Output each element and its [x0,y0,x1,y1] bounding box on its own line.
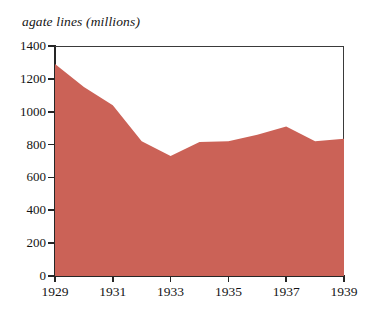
x-tick-mark [170,276,172,282]
y-tick-label: 0 [40,269,47,282]
x-tick-mark [228,276,230,282]
y-tick-label: 200 [27,236,47,249]
x-tick-mark [54,276,56,282]
x-tick-label: 1937 [256,285,316,299]
x-tick-mark [112,276,114,282]
chart-figure: agate lines (millions) 02004006008001000… [0,0,375,315]
x-tick-label: 1931 [83,285,143,299]
area-series-agate-lines [55,46,344,276]
y-tick-label: 400 [27,203,47,216]
x-tick-label: 1935 [198,285,258,299]
y-tick-label: 800 [27,138,47,151]
y-tick-label: 1000 [20,105,46,118]
x-tick-mark [285,276,287,282]
y-tick-label: 1400 [20,39,46,52]
area-fill-path [55,64,344,276]
y-tick-label: 600 [27,170,47,183]
x-tick-label: 1929 [25,285,85,299]
x-tick-label: 1939 [314,285,374,299]
y-tick-label: 1200 [20,72,46,85]
plot-area [55,46,344,276]
x-tick-label: 1933 [141,285,201,299]
x-tick-mark [343,276,345,282]
y-axis-tick-labels: 0200400600800100012001400 [0,0,46,315]
